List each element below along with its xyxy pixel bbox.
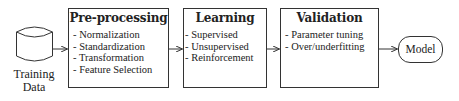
learning-item: Reinforcement — [185, 52, 266, 64]
learning-title: Learning — [184, 11, 266, 26]
preprocessing-title: Pre-processing — [69, 11, 168, 26]
preprocessing-item: Transformation — [73, 52, 168, 64]
training-data-label-line2: Data — [4, 81, 64, 94]
preprocessing-item: Standardization — [73, 41, 168, 53]
model-output-node: Model — [398, 36, 443, 63]
preprocessing-items: Normalization Standardization Transforma… — [69, 29, 168, 75]
learning-item: Supervised — [185, 29, 266, 41]
validation-item: Parameter tuning — [285, 29, 378, 41]
learning-item: Unsupervised — [185, 41, 266, 53]
learning-items: Supervised Unsupervised Reinforcement — [184, 29, 266, 64]
database-cylinder-icon — [17, 27, 53, 61]
validation-title: Validation — [281, 11, 378, 26]
preprocessing-item: Feature Selection — [73, 64, 168, 76]
validation-stage: Validation Parameter tuning Over/underfi… — [280, 8, 379, 88]
preprocessing-stage: Pre-processing Normalization Standardiza… — [68, 8, 169, 88]
learning-stage: Learning Supervised Unsupervised Reinfor… — [183, 8, 267, 88]
validation-item: Over/underfitting — [285, 41, 378, 53]
ml-pipeline-diagram: Training Data Pre-processing Normalizati… — [0, 0, 459, 101]
validation-items: Parameter tuning Over/underfitting — [281, 29, 378, 52]
training-data-label: Training Data — [4, 68, 64, 94]
preprocessing-item: Normalization — [73, 29, 168, 41]
